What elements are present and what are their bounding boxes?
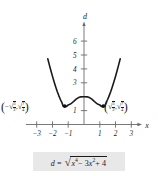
x-tick-label-1: 1: [98, 130, 102, 138]
formula-equals: =: [57, 159, 62, 168]
fraction-left-1: 32: [13, 102, 16, 112]
y-axis-label: d: [83, 12, 88, 21]
paren-close-left: ): [25, 100, 29, 114]
fraction-right-1: 32: [112, 102, 115, 112]
fraction-right-2: 74: [121, 102, 124, 112]
x-axis-arrow: [137, 123, 142, 126]
formula-lhs: d: [51, 159, 55, 168]
paren-close-right: ): [124, 100, 128, 114]
formula-radicand: x4− 3x2+ 4: [70, 156, 107, 168]
x-tick-label-2: 2: [114, 130, 118, 138]
radical-icon-formula: √x4− 3x2+ 4: [64, 156, 107, 168]
fraction-left-2: 74: [22, 102, 25, 112]
y-tick-label-4: 4: [73, 66, 77, 74]
figure-container: −3 −2 −1 1 2 3 1 3 4 5 6 d x (−√32,√74) …: [0, 0, 158, 176]
y-tick-label-3: 3: [72, 79, 77, 87]
annotation-label-right: (√32,√74): [104, 101, 128, 113]
y-axis-arrow: [82, 22, 85, 27]
x-tick-label--2: −2: [48, 130, 57, 138]
plot-canvas: −3 −2 −1 1 2 3 1 3 4 5 6 d x: [0, 0, 158, 176]
y-tick-label-5: 5: [73, 52, 77, 60]
y-tick-label-1: 1: [73, 107, 77, 115]
x-tick-label--3: −3: [32, 130, 41, 138]
y-tick-label-6: 6: [73, 38, 77, 46]
annotation-label-left: (−√32,√74): [1, 101, 29, 113]
formula-text: d = √x4− 3x2+ 4: [51, 156, 107, 168]
x-tick-label-3: 3: [129, 130, 134, 138]
x-axis-label: x: [144, 121, 149, 130]
minimum-point-left: [63, 104, 67, 108]
x-tick-label--1: −1: [64, 130, 72, 138]
formula-box: d = √x4− 3x2+ 4: [33, 152, 125, 171]
